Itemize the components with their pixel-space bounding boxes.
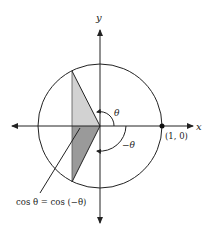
y-axis-label: y bbox=[95, 12, 102, 23]
diagram-canvas: y x (1, 0) θ −θ cos θ = cos (−θ) bbox=[0, 0, 210, 225]
x-axis-label: x bbox=[196, 121, 202, 132]
theta-label: θ bbox=[114, 108, 120, 118]
unit-circle-diagram: y x (1, 0) θ −θ cos θ = cos (−θ) bbox=[0, 0, 210, 225]
caption: cos θ = cos (−θ) bbox=[16, 197, 86, 207]
point-1-0 bbox=[160, 124, 165, 129]
point-label: (1, 0) bbox=[165, 131, 188, 141]
neg-theta-label: −θ bbox=[122, 140, 136, 150]
